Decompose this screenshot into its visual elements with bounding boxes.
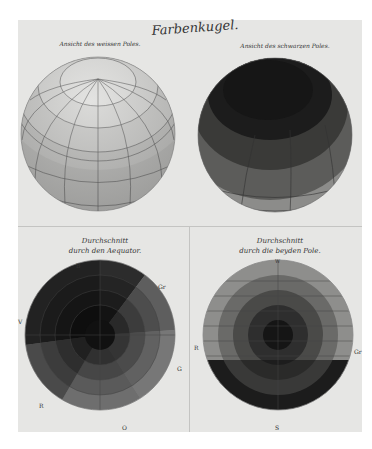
label-equator-top: B — [76, 262, 80, 269]
caption-equator-line2: durch den Aequator. — [60, 246, 150, 256]
label-equator-right: G — [177, 365, 182, 372]
illustrations — [0, 0, 372, 449]
caption-black-pole: Ansicht des schwarzen Poles. — [240, 42, 330, 49]
label-equator-bottom: O — [122, 424, 127, 431]
section-poles — [200, 258, 360, 420]
label-poles-top: W — [275, 258, 280, 264]
label-poles-right: Gr — [354, 348, 362, 355]
label-poles-bottom: S — [275, 424, 279, 431]
label-equator-left: V — [18, 318, 22, 325]
caption-white-pole: Ansicht des weissen Poles. — [55, 40, 145, 47]
sphere-white-pole — [3, 20, 193, 220]
caption-poles-line2: durch die beyden Pole. — [235, 246, 325, 256]
label-equator-top-right: Gr — [158, 283, 166, 290]
caption-equator-line1: Durchschnitt — [60, 236, 150, 246]
sphere-black-pole — [175, 30, 365, 220]
label-poles-left: R — [194, 344, 199, 351]
caption-poles-line1: Durchschnitt — [235, 236, 325, 246]
label-equator-bottom-left: R — [39, 402, 44, 409]
